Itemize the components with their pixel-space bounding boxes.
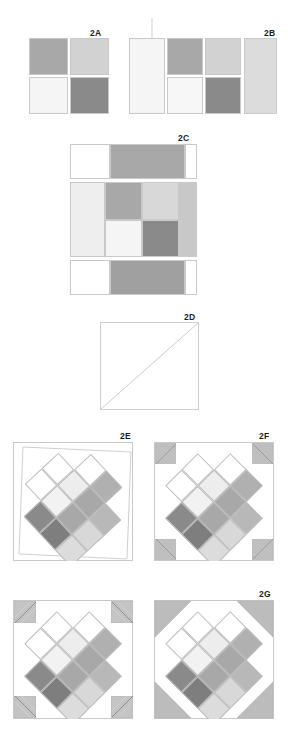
- step-2g-label: 2G: [259, 590, 271, 599]
- patch-2a-top-right: [70, 38, 109, 75]
- patch-2c-top-center-gray: [110, 144, 185, 179]
- step-2d-label: 2D: [184, 313, 195, 322]
- corner-triangle-2f-top-left: [155, 443, 176, 464]
- patch-2c-bottom-left-white: [70, 260, 110, 295]
- corner-triangle-2h-bottom-left: [14, 696, 36, 718]
- patch-2c-top-right-white: [185, 144, 197, 179]
- patch-2c-top-left-white: [70, 144, 110, 179]
- patch-2b-center-bottom-right: [205, 77, 241, 114]
- patch-2b-center-top-right: [205, 38, 241, 75]
- corner-triangle-2h-top-right: [111, 601, 133, 623]
- patch-2c-bottom-center-gray: [110, 260, 185, 295]
- corner-triangle-2h-bottom-right: [111, 696, 133, 718]
- step-2f-label: 2F: [259, 432, 270, 441]
- corner-triangle-2h-top-left: [14, 601, 36, 623]
- patch-2c-center-top-left: [105, 182, 142, 220]
- step-2e-label: 2E: [120, 432, 131, 441]
- patch-2c-bottom-right-white: [185, 260, 197, 295]
- patch-2c-mid-left-strip: [70, 182, 105, 257]
- patch-2b-right-strip: [244, 38, 277, 114]
- diagram-canvas: 2A 2B 2C: [0, 0, 288, 740]
- patch-2c-center-bottom-right: [142, 220, 179, 257]
- patch-2b-left-strip: [129, 38, 165, 114]
- corner-triangle-2f-top-right: [252, 443, 273, 464]
- patch-2b-center-top-left: [167, 38, 203, 75]
- patch-2c-center-bottom-left: [105, 220, 142, 257]
- patch-2c-center-top-right: [142, 182, 179, 220]
- diamond-unit-2e: [13, 442, 133, 561]
- step-2b-label: 2B: [264, 29, 275, 38]
- patch-2c-mid-right-strip: [179, 182, 197, 257]
- diamond-unit-2g: [154, 600, 274, 719]
- step-2a-label: 2A: [90, 29, 101, 38]
- patch-2b-center-bottom-left: [167, 77, 203, 114]
- patch-2a-bottom-right: [70, 77, 109, 114]
- patch-2a-bottom-left: [29, 77, 68, 114]
- corner-triangle-2f-bottom-right: [252, 539, 273, 560]
- patch-2a-top-left: [29, 38, 68, 75]
- step-2c-label: 2C: [178, 134, 189, 143]
- square-2d: [100, 322, 199, 410]
- corner-triangle-2f-bottom-left: [155, 539, 176, 560]
